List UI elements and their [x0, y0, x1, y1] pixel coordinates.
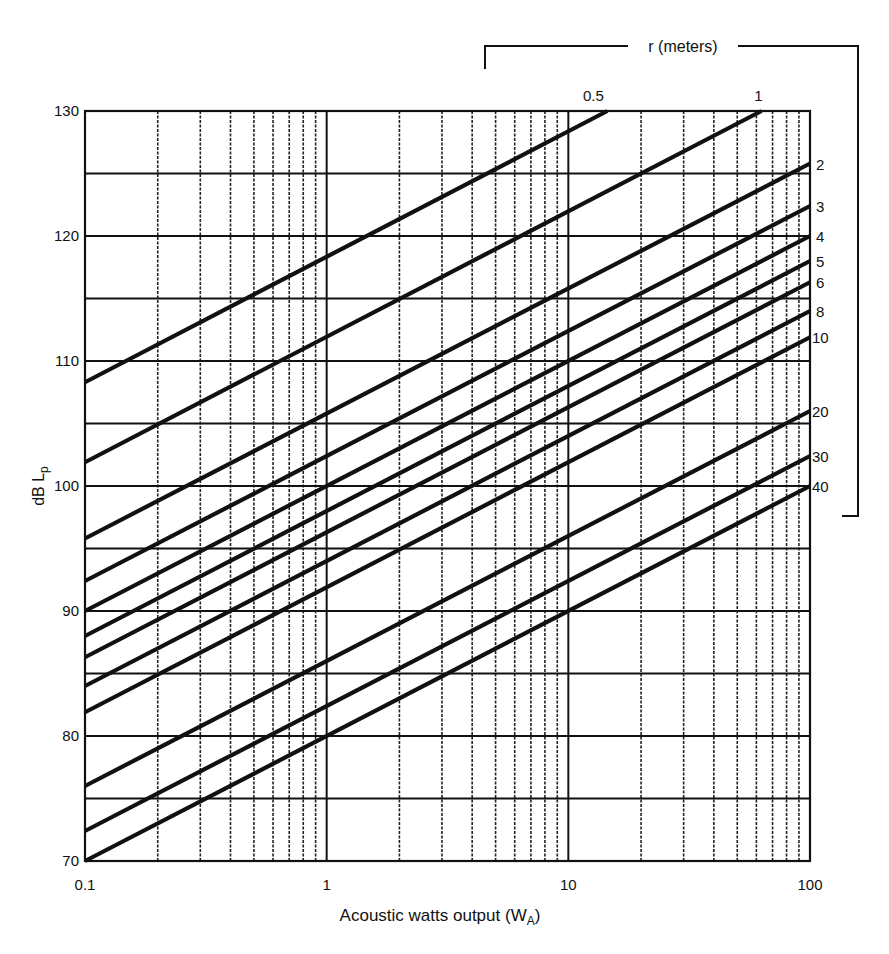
series-label-r: 1: [754, 87, 762, 104]
x-axis-label-close: ): [535, 906, 541, 925]
series-label-r: 5: [816, 253, 824, 270]
series-label-r: 2: [816, 156, 824, 173]
series-label-r: 3: [816, 198, 824, 215]
series-label-r: 4: [816, 228, 824, 245]
series-label-r: 40: [812, 478, 829, 495]
x-axis-label-main: Acoustic watts output (W: [340, 906, 527, 925]
y-tick-label: 110: [55, 352, 79, 369]
x-tick-labels: 0.1110100: [75, 876, 823, 893]
svg-text:dB Lp: dB Lp: [30, 466, 51, 506]
x-tick-label: 1: [322, 876, 330, 893]
y-tick-label: 120: [54, 227, 79, 244]
y-tick-label: 70: [62, 852, 79, 869]
series-line-r-1: [85, 111, 762, 462]
series-line-r-5: [85, 261, 810, 636]
figure-caption-cutoff: [40, 938, 860, 952]
series-line-r-0_5: [85, 111, 607, 382]
y-axis-label-main: dB L: [30, 473, 47, 506]
x-axis-label: Acoustic watts output (WA): [340, 906, 541, 928]
series-label-r: 20: [812, 403, 829, 420]
major-gridlines: [85, 111, 810, 861]
series-label-r: 8: [816, 303, 824, 320]
x-tick-label: 0.1: [75, 876, 96, 893]
y-tick-label: 80: [62, 727, 79, 744]
y-tick-label: 100: [54, 477, 79, 494]
legend-title: r (meters): [648, 38, 717, 55]
series-label-r: 10: [812, 329, 829, 346]
series-line-r-30: [85, 456, 810, 831]
y-axis-label: dB Lp: [30, 466, 51, 506]
series-line-r-6: [85, 282, 810, 657]
y-tick-label: 90: [62, 602, 79, 619]
chart: 708090100110120130 0.1110100 0.512345681…: [0, 0, 889, 954]
series-line-r-2: [85, 164, 810, 539]
series-label-r: 30: [812, 448, 829, 465]
y-tick-label: 130: [54, 102, 79, 119]
y-axis-label-sub: p: [37, 466, 51, 473]
x-axis-label-sub: A: [527, 914, 535, 928]
series-line-r-8: [85, 311, 810, 686]
x-tick-label: 100: [797, 876, 822, 893]
x-tick-label: 10: [560, 876, 577, 893]
series-line-r-20: [85, 411, 810, 786]
y-tick-labels: 708090100110120130: [54, 102, 79, 869]
series-label-r: 0.5: [583, 87, 604, 104]
series-label-r: 6: [816, 274, 824, 291]
